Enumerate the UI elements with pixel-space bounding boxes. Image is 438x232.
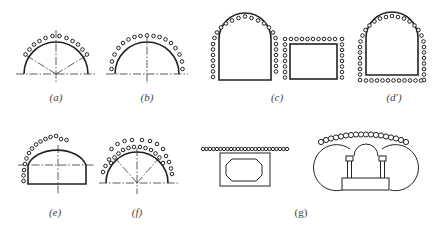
panel-c-horseshoe bbox=[211, 13, 278, 80]
panel-d-label: (d′) bbox=[386, 91, 401, 103]
pipe-row-g-straight bbox=[201, 147, 288, 150]
panel-b-drawing bbox=[106, 33, 188, 84]
panel-a-drawing bbox=[16, 30, 97, 82]
panel-c-rectangle bbox=[283, 37, 344, 79]
pipe-row-c-horseshoe bbox=[211, 15, 278, 79]
panel-g-triple-arch bbox=[314, 132, 419, 191]
panel-g-label: (g) bbox=[295, 206, 308, 218]
pipe-row-g-arched bbox=[318, 132, 408, 145]
diagram-canvas: .ln { stroke:#222; stroke-width:1.6; fil… bbox=[0, 0, 438, 232]
panel-b-label: (b) bbox=[141, 91, 154, 103]
pipe-row-d bbox=[358, 14, 426, 82]
panel-d-drawing bbox=[358, 12, 426, 82]
pipe-row-f-outer bbox=[101, 138, 174, 176]
panel-g-box-culvert bbox=[201, 147, 288, 186]
panel-e-label: (e) bbox=[49, 206, 61, 218]
panel-f-label: (f) bbox=[132, 206, 142, 218]
panel-e-drawing bbox=[18, 134, 95, 194]
panel-f-drawing bbox=[99, 138, 178, 194]
panel-a-label: (a) bbox=[50, 91, 63, 103]
panel-c-label: (c) bbox=[271, 91, 283, 103]
